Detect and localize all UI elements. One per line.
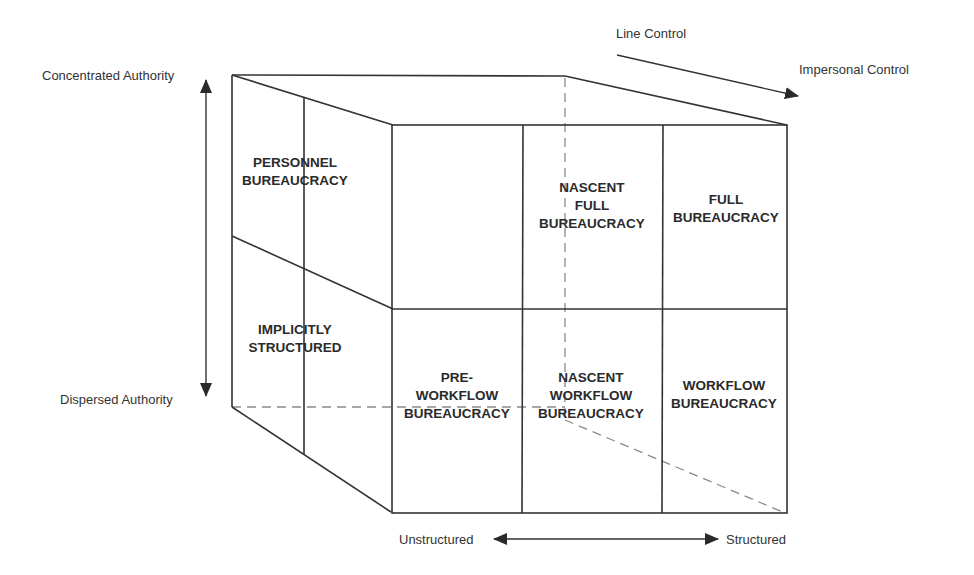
svg-text:BUREAUCRACY: BUREAUCRACY bbox=[673, 210, 779, 225]
top-right-edge bbox=[565, 76, 787, 125]
svg-text:BUREAUCRACY: BUREAUCRACY bbox=[404, 406, 510, 421]
hidden-edges bbox=[232, 78, 785, 513]
bureaucracy-cube-diagram: Concentrated Authority Dispersed Authori… bbox=[0, 0, 974, 575]
top-left-edge bbox=[232, 75, 393, 125]
svg-text:WORKFLOW: WORKFLOW bbox=[416, 388, 499, 403]
svg-text:FULL: FULL bbox=[709, 192, 744, 207]
cell-full-bureaucracy: FULL BUREAUCRACY bbox=[673, 192, 779, 225]
cube-edges bbox=[232, 75, 787, 513]
svg-text:STRUCTURED: STRUCTURED bbox=[249, 340, 342, 355]
svg-text:NASCENT: NASCENT bbox=[559, 180, 625, 195]
svg-text:PRE-: PRE- bbox=[441, 370, 473, 385]
cell-workflow-bureaucracy: WORKFLOW BUREAUCRACY bbox=[671, 378, 777, 411]
svg-text:BUREAUCRACY: BUREAUCRACY bbox=[538, 406, 644, 421]
control-axis-arrow bbox=[617, 55, 798, 96]
label-impersonal-control: Impersonal Control bbox=[799, 62, 909, 77]
svg-text:PERSONNEL: PERSONNEL bbox=[253, 155, 337, 170]
svg-text:IMPLICITLY: IMPLICITLY bbox=[258, 322, 332, 337]
cell-implicitly-structured: IMPLICITLY STRUCTURED bbox=[249, 322, 342, 355]
svg-text:FULL: FULL bbox=[575, 198, 610, 213]
svg-text:WORKFLOW: WORKFLOW bbox=[550, 388, 633, 403]
left-face-middle bbox=[232, 236, 393, 309]
cell-nascent-workflow-bureaucracy: NASCENT WORKFLOW BUREAUCRACY bbox=[538, 370, 644, 421]
label-unstructured: Unstructured bbox=[399, 532, 473, 547]
svg-text:BUREAUCRACY: BUREAUCRACY bbox=[671, 396, 777, 411]
hidden-floor-diagonal-edge bbox=[565, 420, 785, 513]
cell-pre-workflow-bureaucracy: PRE- WORKFLOW BUREAUCRACY bbox=[404, 370, 510, 421]
left-face-bottom bbox=[232, 407, 391, 512]
svg-text:BUREAUCRACY: BUREAUCRACY bbox=[242, 173, 348, 188]
front-face-col-1 bbox=[522, 125, 523, 513]
front-face-col-2 bbox=[662, 125, 663, 513]
label-concentrated-authority: Concentrated Authority bbox=[42, 68, 175, 83]
label-dispersed-authority: Dispersed Authority bbox=[60, 392, 173, 407]
cell-personnel-bureaucracy: PERSONNEL BUREAUCRACY bbox=[242, 155, 348, 188]
top-back-edge bbox=[232, 75, 565, 76]
svg-text:BUREAUCRACY: BUREAUCRACY bbox=[539, 216, 645, 231]
cell-nascent-full-bureaucracy: NASCENT FULL BUREAUCRACY bbox=[539, 180, 645, 231]
label-structured: Structured bbox=[726, 532, 786, 547]
svg-text:NASCENT: NASCENT bbox=[558, 370, 624, 385]
svg-text:WORKFLOW: WORKFLOW bbox=[683, 378, 766, 393]
label-line-control: Line Control bbox=[616, 26, 686, 41]
